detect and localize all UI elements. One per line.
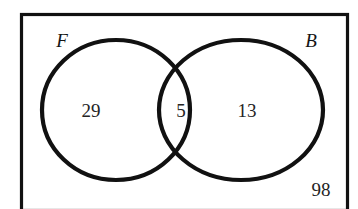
region-count-outside: 98 [312, 179, 331, 200]
venn-diagram-figure: F B 29 5 13 98 [0, 0, 358, 209]
set-b-label: B [305, 30, 317, 51]
region-count-f-only: 29 [82, 100, 101, 121]
region-count-intersection: 5 [176, 100, 186, 121]
set-f-label: F [55, 30, 68, 51]
region-count-b-only: 13 [238, 100, 257, 121]
venn-canvas: F B 29 5 13 98 [0, 0, 358, 209]
